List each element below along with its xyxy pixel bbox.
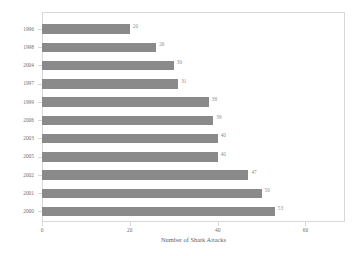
y-tick-label: 2000 — [23, 208, 34, 214]
bar-value-label: 39 — [216, 113, 221, 123]
bars-layer: 2026303138394040475053 — [42, 12, 345, 222]
bar — [42, 79, 178, 89]
x-tick-label: 60 — [303, 227, 308, 233]
x-tick-label: 20 — [127, 227, 132, 233]
bar-value-label: 26 — [159, 40, 164, 50]
bar — [42, 97, 209, 107]
bar-row: 20 — [42, 20, 345, 39]
bar-row: 53 — [42, 202, 345, 221]
bar — [42, 24, 130, 34]
bar-row: 40 — [42, 147, 345, 166]
y-tick-label: 1997 — [23, 80, 34, 86]
y-tick-label: 1998 — [23, 44, 34, 50]
x-tick-label: 40 — [215, 227, 220, 233]
bar-value-label: 50 — [265, 186, 270, 196]
y-tick-label: 2005 — [23, 153, 34, 159]
y-tick-label: 2004 — [23, 62, 34, 68]
bar — [42, 170, 248, 180]
bar-row: 26 — [42, 38, 345, 57]
bar — [42, 61, 174, 71]
x-tick-label: 0 — [41, 227, 44, 233]
bar — [42, 189, 262, 199]
y-tick-label: 2003 — [23, 135, 34, 141]
bar-value-label: 30 — [177, 58, 182, 68]
bar — [42, 43, 156, 53]
bar-row: 50 — [42, 184, 345, 203]
bar-row: 47 — [42, 166, 345, 185]
bar-value-label: 20 — [133, 22, 138, 32]
y-tick-label: 2002 — [23, 172, 34, 178]
bar — [42, 207, 275, 217]
x-tick-mark — [305, 222, 306, 226]
y-tick-label: 1999 — [23, 99, 34, 105]
bar-value-label: 47 — [251, 168, 256, 178]
shark-attacks-bar-chart: 1996199820041997199920062003200520022001… — [0, 0, 363, 256]
bar-value-label: 40 — [221, 131, 226, 141]
x-axis-title: Number of Shark Attacks — [42, 236, 345, 243]
bar-row: 38 — [42, 93, 345, 112]
x-tick-mark — [218, 222, 219, 226]
x-tick-mark — [42, 222, 43, 226]
y-tick-label: 2006 — [23, 117, 34, 123]
x-tick-mark — [130, 222, 131, 226]
bar-value-label: 38 — [212, 95, 217, 105]
bar-value-label: 40 — [221, 150, 226, 160]
bar-row: 30 — [42, 56, 345, 75]
y-tick-label: 1996 — [23, 26, 34, 32]
x-axis: Number of Shark Attacks 0204060 — [42, 222, 345, 256]
bar-row: 31 — [42, 74, 345, 93]
bar — [42, 152, 218, 162]
y-tick-label: 2001 — [23, 190, 34, 196]
y-axis: 1996199820041997199920062003200520022001… — [0, 12, 40, 222]
bar-value-label: 53 — [278, 204, 283, 214]
bar — [42, 134, 218, 144]
bar — [42, 116, 213, 126]
bar-row: 39 — [42, 111, 345, 130]
bar-value-label: 31 — [181, 77, 186, 87]
bar-row: 40 — [42, 129, 345, 148]
